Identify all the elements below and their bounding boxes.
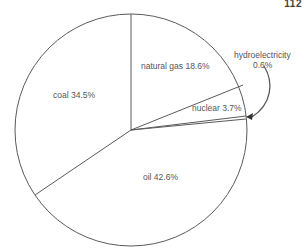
label-natural-gas: natural gas 18.6% xyxy=(141,61,210,71)
arrow-head-icon xyxy=(246,113,253,120)
slice-boundary-oil-coal xyxy=(35,130,131,195)
label-hydroelectricity: hydroelectricity xyxy=(234,50,291,60)
pie-chart xyxy=(0,0,304,252)
hydro-callout-arrow xyxy=(252,66,270,117)
slice-boundary-hydro-oil xyxy=(131,119,246,130)
label-nuclear: nuclear 3.7% xyxy=(192,103,242,113)
label-hydroelectricity-value: 0.6% xyxy=(253,60,272,70)
label-oil: oil 42.6% xyxy=(143,172,178,182)
label-coal: coal 34.5% xyxy=(53,90,95,100)
